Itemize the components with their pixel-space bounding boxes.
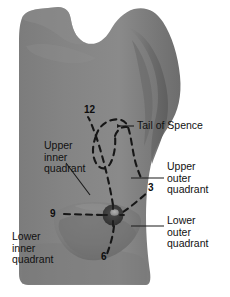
label-upper-outer-quadrant: Upper outer quadrant <box>167 161 208 196</box>
label-tail-of-spence: Tail of Spence <box>137 120 203 132</box>
clock-marker-12: 12 <box>84 105 95 115</box>
clock-marker-3: 3 <box>148 183 154 193</box>
clock-marker-6: 6 <box>101 252 107 262</box>
label-lower-outer-quadrant: Lower outer quadrant <box>167 215 208 250</box>
label-upper-inner-quadrant: Upper inner quadrant <box>44 140 85 175</box>
nipple <box>110 209 118 215</box>
breast-quadrant-figure: 12 3 6 9 Tail of Spence Upper inner quad… <box>0 0 230 297</box>
label-lower-inner-quadrant: Lower inner quadrant <box>12 231 53 266</box>
clock-marker-9: 9 <box>50 209 56 219</box>
